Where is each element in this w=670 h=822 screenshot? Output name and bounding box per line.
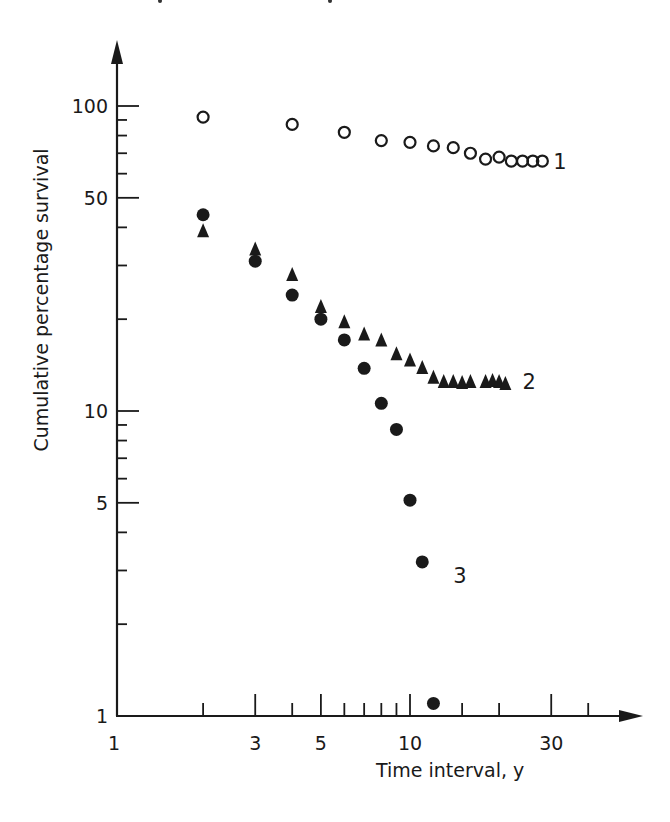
open-circle-marker [198,112,209,123]
triangle-marker [286,267,298,281]
y-tick-label: 10 [84,400,108,422]
triangle-marker [404,352,416,366]
triangle-marker [438,374,450,388]
y-tick-label: 1 [96,705,108,727]
open-circle-marker [428,140,439,151]
x-axis-title: Time interval, y [375,759,524,781]
open-circle-marker [506,156,517,167]
open-circle-marker [339,127,350,138]
filled-circle-marker [375,397,388,410]
x-axis-arrow-icon [619,710,643,722]
series-label-1: 1 [553,150,566,174]
open-circle-marker [287,119,298,130]
survival-chart: 1351030 151050100 Time interval, y Cumul… [0,0,670,822]
open-circle-marker [448,142,459,153]
series-1: 1 [198,112,567,174]
filled-circle-marker [358,362,371,375]
x-tick-label: 3 [249,732,261,754]
x-tick-label: 5 [315,732,327,754]
y-ticks: 151050100 [72,95,139,727]
x-ticks: 1351030 [108,694,588,754]
triangle-marker [464,374,476,388]
x-tick-label: 30 [539,732,563,754]
open-circle-marker [480,154,491,165]
open-circle-marker [405,137,416,148]
filled-circle-marker [427,697,440,710]
filled-circle-marker [197,208,210,221]
series-label-3: 3 [453,564,466,588]
triangle-marker [249,241,261,255]
axes: 1351030 151050100 [72,40,643,754]
edge-speck [328,0,332,3]
filled-circle-marker [249,255,262,268]
triangle-marker [427,370,439,384]
filled-circle-marker [286,289,299,302]
y-axis-arrow-icon [111,40,123,64]
triangle-marker [375,332,387,346]
series-3: 3 [197,208,467,710]
y-tick-label: 5 [96,492,108,514]
triangle-marker [390,346,402,360]
triangle-marker [315,299,327,313]
edge-speck [158,0,162,3]
filled-circle-marker [314,313,327,326]
filled-circle-marker [416,555,429,568]
filled-circle-marker [404,494,417,507]
open-circle-marker [376,135,387,146]
open-circle-marker [465,148,476,159]
filled-circle-marker [338,333,351,346]
filled-circle-marker [390,423,403,436]
y-tick-label: 100 [72,95,108,117]
open-circle-marker [494,152,505,163]
y-axis-title: Cumulative percentage survival [30,148,52,451]
series-label-2: 2 [523,370,536,394]
x-tick-label: 1 [108,732,120,754]
data-series: 123 [197,112,567,710]
x-tick-label: 10 [398,732,422,754]
triangle-marker [197,223,209,237]
y-tick-label: 50 [84,187,108,209]
triangle-marker [338,314,350,328]
triangle-marker [416,360,428,374]
triangle-marker [447,374,459,388]
triangle-marker [358,326,370,340]
